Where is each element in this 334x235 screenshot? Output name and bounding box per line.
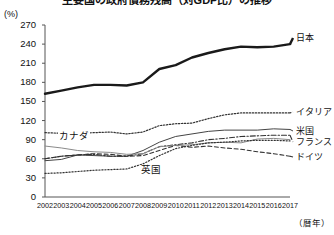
y-axis-tick-label: 0	[10, 192, 36, 202]
plot-area	[0, 0, 334, 235]
legend-connector-japan	[290, 38, 293, 44]
y-axis-tick-label: 30	[10, 173, 36, 183]
series-label-germany: ドイツ	[296, 152, 323, 162]
y-axis-tick-label: 60	[10, 154, 36, 164]
y-axis-tick-label: 150	[10, 96, 36, 106]
y-axis-tick-label: 270	[10, 20, 36, 30]
series-label-usa: 米国	[296, 126, 314, 136]
series-line-日本	[45, 44, 290, 94]
x-axis-unit-label: （暦年）	[294, 219, 330, 228]
series-label-france: フランス	[296, 137, 332, 147]
legend-connector-germany	[290, 156, 293, 157]
series-label-japan: 日本	[296, 33, 314, 43]
legend-connector-lines	[290, 38, 293, 157]
data-series-group	[45, 44, 290, 173]
y-axis-tick-label: 120	[10, 116, 36, 126]
y-axis-tick-label: 210	[10, 58, 36, 68]
series-label-italy: イタリア	[296, 107, 332, 117]
inline-series-label-uk: 英国	[140, 165, 162, 175]
y-axis-tick-label: 90	[10, 135, 36, 145]
inline-series-label-canada: カナダ	[58, 131, 90, 141]
y-axis-tick-label: 240	[10, 39, 36, 49]
x-axis-tick-label: 2017	[278, 202, 302, 210]
legend-connector-usa	[290, 129, 293, 131]
government-debt-line-chart: 主要国の政府債務残高（対GDP比）の推移 (%) 030609012015018…	[0, 0, 334, 235]
y-axis-tick-label: 180	[10, 77, 36, 87]
legend-connector-italy	[290, 112, 293, 113]
